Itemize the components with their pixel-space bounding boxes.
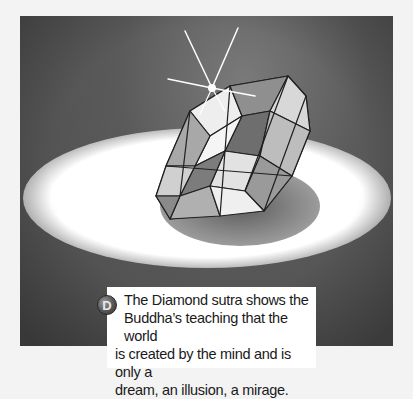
caption-marker-badge: D <box>97 295 117 315</box>
caption-line-4: dream, an illusion, a mirage. <box>115 381 310 399</box>
caption-line-2: Buddha’s teaching that the world <box>115 309 310 345</box>
caption-line-3: is created by the mind and is only a <box>115 345 310 381</box>
caption-box: The Diamond sutra shows the Buddha’s tea… <box>107 287 316 368</box>
badge-letter: D <box>102 298 111 313</box>
caption-line-1: The Diamond sutra shows the <box>115 291 310 309</box>
